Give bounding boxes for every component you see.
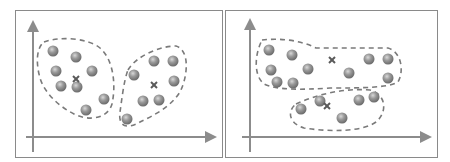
data-point [315, 96, 326, 107]
data-point [344, 68, 355, 79]
data-point [264, 45, 275, 56]
data-point [122, 114, 133, 125]
data-point [266, 65, 277, 76]
clustering-diagram [0, 0, 450, 162]
data-point [87, 66, 98, 77]
data-point [369, 92, 380, 103]
diagram-stage [0, 0, 450, 162]
data-point [129, 70, 140, 81]
data-point [287, 50, 298, 61]
data-point [138, 96, 149, 107]
data-point [149, 56, 160, 67]
data-point [364, 54, 375, 65]
data-point [383, 73, 394, 84]
data-point [99, 94, 110, 105]
data-point [168, 56, 179, 67]
left-panel [16, 11, 223, 158]
panel-frame [226, 11, 438, 158]
data-point [72, 82, 83, 93]
panel-frame [16, 11, 223, 158]
data-point [272, 77, 283, 88]
data-point [48, 46, 59, 57]
data-point [51, 66, 62, 77]
data-point [383, 54, 394, 65]
data-point [169, 76, 180, 87]
data-point [81, 105, 92, 116]
data-point [154, 95, 165, 106]
data-point [288, 78, 299, 89]
data-point [296, 104, 307, 115]
data-point [56, 81, 67, 92]
right-panel [226, 11, 438, 158]
data-point [337, 113, 348, 124]
data-point [71, 52, 82, 63]
data-point [303, 64, 314, 75]
data-point [354, 95, 365, 106]
